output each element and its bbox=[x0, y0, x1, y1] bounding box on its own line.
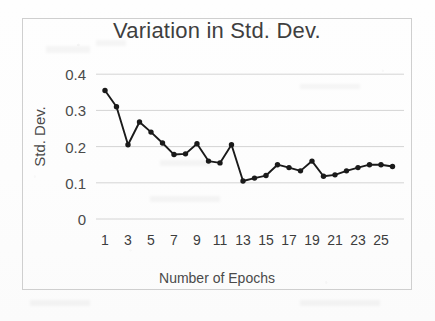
x-tick-label: 7 bbox=[170, 232, 178, 248]
chart-page: Variation in Std. Dev. Std. Dev. Number … bbox=[0, 0, 435, 321]
x-tick-label: 11 bbox=[213, 232, 228, 248]
x-tick-label: 21 bbox=[327, 232, 343, 248]
x-tick-label: 25 bbox=[373, 232, 389, 248]
x-axis-tick-labels: 135791113151719212325 bbox=[0, 0, 435, 321]
x-tick-label: 23 bbox=[350, 232, 366, 248]
x-tick-label: 5 bbox=[147, 232, 155, 248]
x-tick-label: 15 bbox=[258, 232, 274, 248]
x-tick-label: 13 bbox=[235, 232, 251, 248]
x-tick-label: 19 bbox=[304, 232, 320, 248]
x-tick-label: 17 bbox=[281, 232, 297, 248]
x-tick-label: 3 bbox=[124, 232, 132, 248]
x-tick-label: 9 bbox=[193, 232, 201, 248]
x-tick-label: 1 bbox=[101, 232, 109, 248]
